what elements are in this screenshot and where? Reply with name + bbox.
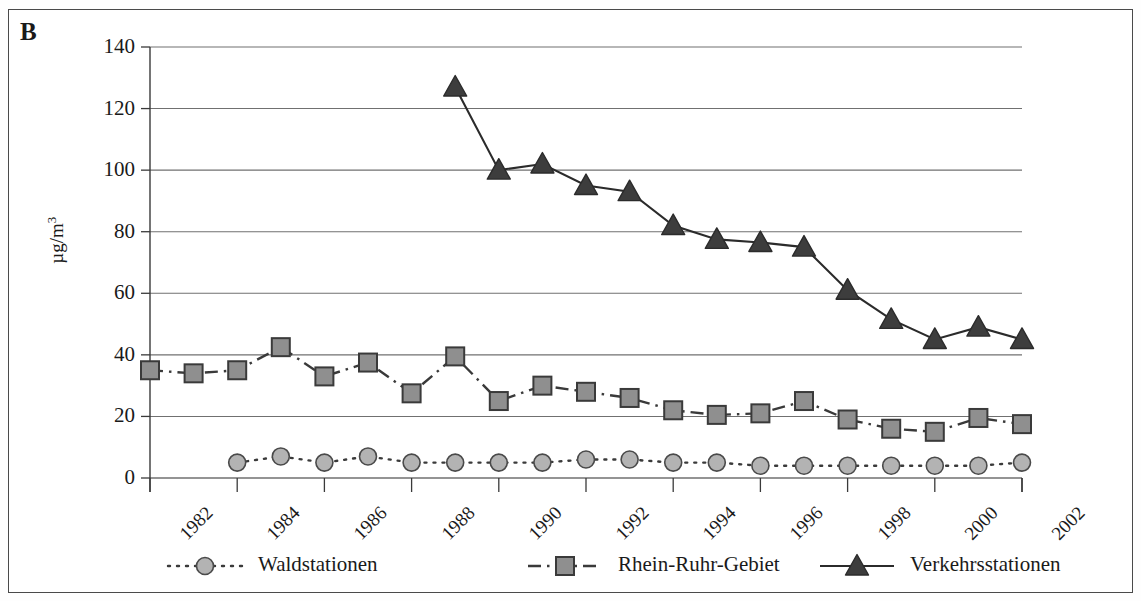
data-point-circle bbox=[926, 457, 943, 474]
data-point-circle bbox=[883, 457, 900, 474]
y-tick-label: 20 bbox=[75, 405, 135, 426]
data-point-square bbox=[446, 347, 464, 365]
data-point-square bbox=[708, 406, 726, 424]
data-point-square bbox=[272, 338, 290, 356]
data-point-triangle bbox=[531, 152, 554, 172]
data-point-circle bbox=[447, 454, 464, 471]
legend-label: Waldstationen bbox=[258, 554, 378, 575]
data-point-triangle bbox=[705, 228, 728, 248]
data-point-circle bbox=[578, 451, 595, 468]
data-point-circle bbox=[229, 454, 246, 471]
data-point-circle bbox=[360, 448, 377, 465]
data-point-square bbox=[1013, 415, 1031, 433]
legend-label: Rhein-Ruhr-Gebiet bbox=[618, 554, 780, 575]
data-point-square bbox=[621, 389, 639, 407]
data-point-square bbox=[751, 404, 769, 422]
data-point-square bbox=[577, 383, 595, 401]
data-point-square bbox=[969, 409, 987, 427]
data-point-triangle bbox=[575, 174, 598, 194]
y-tick-label: 100 bbox=[75, 159, 135, 180]
y-tick-label: 0 bbox=[75, 467, 135, 488]
data-point-circle bbox=[272, 448, 289, 465]
data-point-square bbox=[926, 423, 944, 441]
data-point-square bbox=[882, 420, 900, 438]
data-point-square bbox=[664, 401, 682, 419]
data-point-circle bbox=[970, 457, 987, 474]
data-point-circle bbox=[534, 454, 551, 471]
legend-circle-marker bbox=[197, 558, 214, 575]
data-point-square bbox=[795, 392, 813, 410]
data-point-triangle bbox=[880, 308, 903, 328]
data-point-circle bbox=[1014, 454, 1031, 471]
y-tick-label: 80 bbox=[75, 221, 135, 242]
data-point-square bbox=[839, 411, 857, 429]
data-point-square bbox=[533, 377, 551, 395]
y-tick-label: 40 bbox=[75, 344, 135, 365]
data-point-circle bbox=[665, 454, 682, 471]
data-point-square bbox=[490, 392, 508, 410]
y-tick-label: 140 bbox=[75, 36, 135, 57]
data-point-circle bbox=[490, 454, 507, 471]
legend-square-marker bbox=[556, 557, 574, 575]
chart-plot-area bbox=[0, 0, 1141, 601]
data-point-square bbox=[185, 364, 203, 382]
y-tick-label: 60 bbox=[75, 282, 135, 303]
legend-triangle-marker bbox=[846, 555, 869, 575]
data-point-triangle bbox=[444, 76, 467, 96]
data-point-square bbox=[228, 361, 246, 379]
data-point-triangle bbox=[662, 214, 685, 234]
series-line-triangle bbox=[455, 87, 1022, 339]
data-point-circle bbox=[796, 457, 813, 474]
figure-panel-b: B µg/m3 02040608010012014019821984198619… bbox=[0, 0, 1141, 601]
legend-label: Verkehrsstationen bbox=[910, 554, 1060, 575]
y-tick-label: 120 bbox=[75, 98, 135, 119]
data-point-circle bbox=[316, 454, 333, 471]
data-point-square bbox=[141, 361, 159, 379]
data-point-circle bbox=[621, 451, 638, 468]
data-point-square bbox=[315, 367, 333, 385]
data-point-square bbox=[359, 354, 377, 372]
data-point-circle bbox=[752, 457, 769, 474]
data-point-circle bbox=[403, 454, 420, 471]
data-point-square bbox=[403, 384, 421, 402]
data-point-triangle bbox=[967, 316, 990, 336]
data-point-circle bbox=[839, 457, 856, 474]
data-point-circle bbox=[708, 454, 725, 471]
